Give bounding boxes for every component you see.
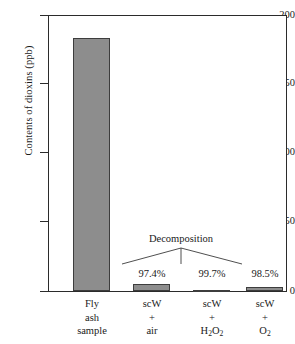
x-category-line: + — [230, 311, 295, 325]
x-category-line: scW — [230, 297, 295, 311]
x-category-formula-o2: O2 — [230, 324, 295, 339]
y-axis-title: Contents of dioxins (ppb) — [23, 0, 34, 221]
x-category-scw-o2: scW + O2 — [230, 297, 295, 339]
decomposition-annotation-label: Decomposition — [131, 233, 231, 244]
bar-fly-ash-sample — [73, 38, 110, 292]
percent-label-scw-o2: 98.5% — [225, 268, 295, 279]
bar-scw-air — [133, 284, 170, 291]
bar-scw-o2 — [246, 287, 283, 291]
bar-scw-h2o2 — [193, 290, 230, 292]
chart-figure: Contents of dioxins (ppb) 200 150 100 50… — [0, 0, 295, 344]
